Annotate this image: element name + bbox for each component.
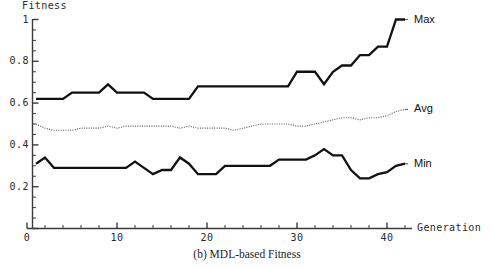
x-axis-ticks — [27, 223, 405, 229]
y-tick-label: 1 — [22, 14, 29, 25]
figure-mdl-based-fitness: Fitness Generation Max Avg Min (b) MDL-b… — [0, 0, 494, 269]
x-tick-label: 40 — [367, 232, 407, 243]
series-label-max: Max — [414, 13, 435, 25]
y-tick-label: 0.8 — [9, 55, 29, 66]
y-axis-ticks — [33, 20, 39, 229]
x-tick-label: 30 — [277, 232, 317, 243]
axes-group — [27, 19, 412, 229]
series-line-max — [36, 20, 405, 99]
x-tick-label: 20 — [187, 232, 227, 243]
series-layer — [36, 20, 405, 179]
y-tick-label: 0.6 — [9, 97, 29, 108]
x-tick-label: 0 — [7, 232, 47, 243]
series-leader-lines — [405, 20, 408, 164]
plot-area — [0, 0, 494, 269]
series-line-avg — [36, 109, 405, 130]
series-label-avg: Avg — [414, 102, 433, 114]
series-label-min: Min — [414, 157, 432, 169]
y-tick-label: 0.4 — [9, 139, 29, 150]
y-tick-label: 0.2 — [9, 181, 29, 192]
figure-caption: (b) MDL-based Fitness — [0, 248, 494, 260]
x-tick-label: 10 — [97, 232, 137, 243]
series-line-min — [36, 149, 405, 178]
